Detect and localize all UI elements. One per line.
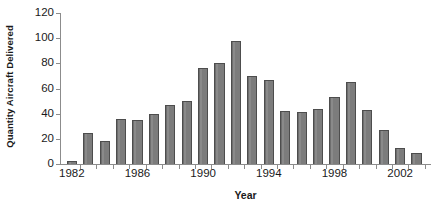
bar: [297, 112, 307, 164]
bar: [329, 97, 339, 164]
bar: [346, 82, 356, 164]
bar: [264, 80, 274, 164]
y-axis-tick-label: 80: [41, 58, 54, 70]
y-axis-tick-mark: [56, 38, 60, 39]
bar: [379, 130, 389, 164]
x-axis-tick-label: 1990: [190, 168, 216, 180]
bar: [165, 105, 175, 164]
y-axis-tick-mark: [56, 63, 60, 64]
y-axis-tick-mark: [56, 13, 60, 14]
x-axis-tick-label: 1994: [256, 168, 282, 180]
y-axis-tick-mark: [56, 89, 60, 90]
y-axis-tick-label: 60: [41, 83, 54, 95]
bar: [182, 101, 192, 164]
y-axis-tick-label: 40: [41, 108, 54, 120]
bar-chart-figure: Quantity Aircraft Delivered 020406080100…: [0, 0, 437, 216]
bar: [247, 76, 257, 164]
x-axis-tick-labels: 198219861990199419982002: [60, 168, 431, 184]
y-axis-tick-label: 120: [35, 7, 54, 19]
bar: [132, 120, 142, 164]
bar: [100, 141, 110, 164]
x-axis-tick-label: 1982: [59, 168, 85, 180]
y-axis-title-label: Quantity Aircraft Delivered: [4, 25, 15, 148]
x-axis-tick-label: 1986: [125, 168, 151, 180]
x-axis-tick-label: 1998: [322, 168, 348, 180]
bar: [313, 109, 323, 164]
y-axis-tick-mark: [56, 139, 60, 140]
bars-layer: [61, 13, 431, 164]
bar: [67, 161, 77, 164]
y-axis-tick-labels: 020406080100120: [16, 0, 58, 172]
y-axis-tick-label: 20: [41, 133, 54, 145]
x-axis-tick-label: 2002: [387, 168, 413, 180]
bar: [149, 114, 159, 164]
bar: [83, 133, 93, 164]
bar: [116, 119, 126, 164]
bar: [362, 110, 372, 164]
x-axis-title-label: Year: [234, 189, 256, 201]
bar: [231, 41, 241, 164]
bar: [198, 68, 208, 164]
y-axis-tick-mark: [56, 114, 60, 115]
bar: [411, 153, 421, 164]
y-axis-tick-mark: [56, 164, 60, 165]
x-axis-title: Year: [60, 189, 431, 201]
bar: [280, 111, 290, 164]
bar: [214, 63, 224, 164]
plot-area: [60, 13, 431, 165]
y-axis-tick-label: 100: [35, 32, 54, 44]
y-axis-tick-label: 0: [48, 158, 54, 170]
bar: [395, 148, 405, 164]
